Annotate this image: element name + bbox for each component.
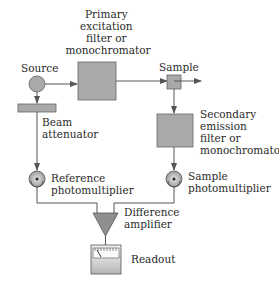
sample-label: Sample	[159, 61, 199, 73]
reference-photomultiplier-icon	[29, 171, 45, 187]
beam-attenuator-label: Beam attenuator	[42, 116, 99, 140]
reference-pmt-label: Reference photomultiplier	[51, 172, 135, 196]
difference-amplifier-label: Difference amplifier	[124, 206, 183, 230]
secondary-filter-label: Secondary emission filter or monochromat…	[200, 108, 279, 156]
readout-meter-icon	[91, 245, 121, 274]
beam-attenuator-bar	[18, 104, 56, 112]
source-lamp-icon	[29, 76, 45, 92]
primary-filter-label: Primary excitation filter or monochromat…	[65, 8, 151, 56]
difference-amplifier-icon	[93, 213, 118, 236]
fluorometer-diagram: Source Primary excitation filter or mono…	[0, 0, 279, 291]
primary-filter-box	[78, 62, 116, 100]
readout-label: Readout	[131, 253, 176, 265]
source-label: Source	[21, 62, 58, 74]
sample-photomultiplier-icon	[166, 171, 182, 187]
sample-cuvette	[167, 75, 181, 89]
sample-pmt-label: Sample photomultiplier	[188, 170, 272, 194]
secondary-filter-box	[157, 114, 193, 147]
